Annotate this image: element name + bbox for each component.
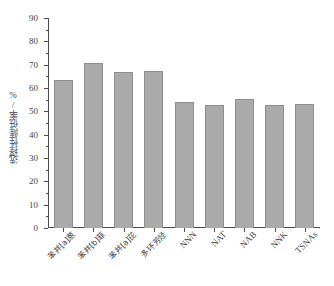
y-axis-title: 选择性降低率/% <box>6 62 20 192</box>
x-tick-label-3: 多环芳烃 <box>139 230 168 259</box>
y-tick-label-0: 0 <box>34 224 39 233</box>
y-tick-label-50: 50 <box>29 107 38 116</box>
x-tick-label-4: NNN <box>178 230 198 250</box>
y-tick-label-10: 10 <box>29 200 38 209</box>
x-tick-label-6: NAB <box>239 230 259 250</box>
bar-series <box>48 18 320 228</box>
bar-6 <box>235 99 254 228</box>
x-axis-labels: 苯并[a]蒽苯并[b]菲苯并[a]芘多环芳烃NNNNATNABNNKTSNAs <box>48 230 320 286</box>
bar-2 <box>114 72 133 228</box>
bar-4 <box>175 102 194 228</box>
bar-5 <box>205 105 224 228</box>
y-tick-label-70: 70 <box>29 60 38 69</box>
y-tick-label-30: 30 <box>29 154 38 163</box>
x-tick-label-8: TSNAs <box>294 230 319 255</box>
bar-1 <box>84 63 103 228</box>
y-tick-label-90: 90 <box>29 14 38 23</box>
x-tick-label-0: 苯并[a]蒽 <box>46 230 77 261</box>
bar-7 <box>265 105 284 228</box>
y-tick-0: 0 <box>44 228 48 229</box>
bar-3 <box>144 71 163 228</box>
x-tick-label-7: NNK <box>269 230 289 250</box>
x-tick-label-5: NAT <box>210 230 229 249</box>
y-tick-label-20: 20 <box>29 177 38 186</box>
bar-8 <box>295 104 314 228</box>
bar-chart: 选择性降低率/% 0102030405060708090 苯并[a]蒽苯并[b]… <box>0 0 334 286</box>
x-tick-label-2: 苯并[a]芘 <box>107 230 138 261</box>
x-tick-label-1: 苯并[b]菲 <box>76 230 107 261</box>
y-tick-label-60: 60 <box>29 84 38 93</box>
plot-area: 0102030405060708090 <box>48 18 320 228</box>
y-tick-label-80: 80 <box>29 37 38 46</box>
y-tick-label-40: 40 <box>29 130 38 139</box>
bar-0 <box>54 80 73 228</box>
